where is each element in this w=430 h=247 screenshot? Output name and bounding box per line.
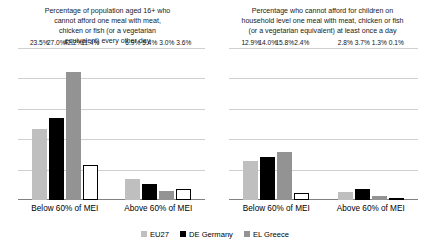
plot-area-left: 23.5% 27.0% 42.2% 11.4% bbox=[18, 48, 205, 200]
bar-slot: 6.9% bbox=[124, 48, 141, 200]
bar-value-label: 14.0% bbox=[258, 39, 277, 47]
legend-swatch-icon bbox=[180, 231, 186, 237]
legend-swatch-icon bbox=[141, 231, 147, 237]
bar-groups-right: 12.9% 14.0% 15.8% 2.4% bbox=[229, 48, 418, 200]
category-axis-left: Below 60% of MEI Above 60% of MEI bbox=[18, 202, 205, 218]
bar-value-label: 27.0% bbox=[47, 39, 66, 47]
bar-value-label: 0.1% bbox=[389, 39, 404, 47]
bar-el-greece[interactable] bbox=[277, 152, 292, 200]
bar-series-four[interactable] bbox=[176, 189, 191, 200]
bar-value-label: 6.9% bbox=[125, 39, 140, 47]
bar-value-label: 3.7% bbox=[355, 39, 370, 47]
bar-slot: 3.7% bbox=[354, 48, 371, 200]
legend-label: EU27 bbox=[150, 230, 169, 239]
chart-panel-left: Percentage of population aged 16+ who ca… bbox=[0, 0, 215, 222]
legend-swatch-icon bbox=[244, 231, 250, 237]
bar-slot: 3.0% bbox=[158, 48, 175, 200]
bar-slot: 42.2% bbox=[65, 48, 82, 200]
chart-title-left: Percentage of population aged 16+ who ca… bbox=[0, 0, 215, 44]
bar-value-label: 12.9% bbox=[241, 39, 260, 47]
category-label-above-60: Above 60% of MEI bbox=[324, 202, 419, 218]
bar-el-greece[interactable] bbox=[159, 191, 174, 200]
bar-slot: 2.8% bbox=[337, 48, 354, 200]
legend-item-el-greece[interactable]: EL Greece bbox=[244, 230, 289, 239]
bar-eu27[interactable] bbox=[32, 129, 47, 200]
bar-series-four[interactable] bbox=[83, 165, 98, 200]
bar-value-label: 2.4% bbox=[294, 39, 309, 47]
bar-slot: 1.3% bbox=[371, 48, 388, 200]
plot-area-right: 12.9% 14.0% 15.8% 2.4% bbox=[229, 48, 418, 200]
bar-value-label: 23.5% bbox=[30, 39, 49, 47]
bar-de-germany[interactable] bbox=[260, 157, 275, 200]
bar-de-germany[interactable] bbox=[49, 118, 64, 200]
figure: Percentage of population aged 16+ who ca… bbox=[0, 0, 430, 247]
bar-eu27[interactable] bbox=[243, 161, 258, 200]
bar-group: 23.5% 27.0% 42.2% 11.4% bbox=[18, 48, 112, 200]
bar-slot: 11.4% bbox=[82, 48, 99, 200]
bar-de-germany[interactable] bbox=[142, 184, 157, 200]
bar-value-label: 42.2% bbox=[64, 39, 83, 47]
bar-el-greece[interactable] bbox=[66, 72, 81, 200]
bar-slot: 0.1% bbox=[388, 48, 405, 200]
bar-de-germany[interactable] bbox=[355, 189, 370, 200]
bar-value-label: 3.6% bbox=[176, 39, 191, 47]
bar-group: 2.8% 3.7% 1.3% 0.1% bbox=[324, 48, 419, 200]
chart-panel-right: Percentage who cannot afford for childre… bbox=[215, 0, 430, 222]
chart-title-right: Percentage who cannot afford for childre… bbox=[215, 0, 430, 44]
category-label-below-60: Below 60% of MEI bbox=[18, 202, 112, 218]
bar-slot: 2.4% bbox=[293, 48, 310, 200]
bar-series-four[interactable] bbox=[294, 193, 309, 200]
panels-container: Percentage of population aged 16+ who ca… bbox=[0, 0, 430, 222]
bar-value-label: 1.3% bbox=[372, 39, 387, 47]
bar-value-label: 11.4% bbox=[81, 39, 99, 47]
category-axis-right: Below 60% of MEI Above 60% of MEI bbox=[229, 202, 418, 218]
bar-value-label: 5.4% bbox=[142, 39, 157, 47]
bar-slot: 23.5% bbox=[31, 48, 48, 200]
bar-slot: 3.6% bbox=[175, 48, 192, 200]
bar-slot: 15.8% bbox=[276, 48, 293, 200]
category-label-above-60: Above 60% of MEI bbox=[112, 202, 206, 218]
bar-el-greece[interactable] bbox=[372, 196, 387, 200]
bar-value-label: 15.8% bbox=[275, 39, 294, 47]
bar-slot: 14.0% bbox=[259, 48, 276, 200]
legend-label: DE Germany bbox=[189, 230, 233, 239]
bar-groups-left: 23.5% 27.0% 42.2% 11.4% bbox=[18, 48, 205, 200]
bar-value-label: 3.0% bbox=[159, 39, 174, 47]
bar-group: 12.9% 14.0% 15.8% 2.4% bbox=[229, 48, 324, 200]
bar-value-label: 2.8% bbox=[338, 39, 353, 47]
bar-slot: 27.0% bbox=[48, 48, 65, 200]
bar-slot: 5.4% bbox=[141, 48, 158, 200]
bar-series-four[interactable] bbox=[389, 198, 404, 200]
legend-item-de-germany[interactable]: DE Germany bbox=[180, 230, 233, 239]
bar-eu27[interactable] bbox=[338, 192, 353, 201]
bar-group: 6.9% 5.4% 3.0% 3.6% bbox=[112, 48, 206, 200]
bar-eu27[interactable] bbox=[125, 179, 140, 200]
legend-item-eu27[interactable]: EU27 bbox=[141, 230, 169, 239]
chart-legend: EU27 DE Germany EL Greece bbox=[0, 225, 430, 243]
legend-label: EL Greece bbox=[253, 230, 289, 239]
bar-slot: 12.9% bbox=[242, 48, 259, 200]
category-label-below-60: Below 60% of MEI bbox=[229, 202, 324, 218]
